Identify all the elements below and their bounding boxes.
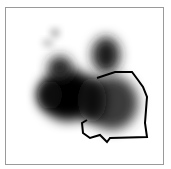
saliency-blob <box>38 28 138 130</box>
heatmap-figure <box>0 0 171 169</box>
